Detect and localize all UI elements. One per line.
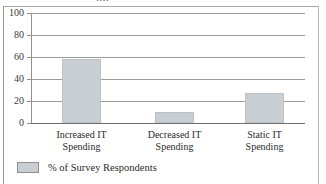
bar-static-it-spending[interactable] [245, 93, 284, 123]
xtick-label-static-it-spending: Static IT Spending [224, 129, 305, 152]
figure-frame-right [318, 6, 319, 184]
chart-legend: % of Survey Respondents [17, 162, 157, 173]
ytick-mark-0 [27, 123, 31, 124]
xtick-label-line2: Spending [41, 141, 122, 153]
ytick-label-80: 80 [14, 30, 24, 40]
bar-chart-figure: pp 100 80 60 40 20 0 Increased IT Spendi… [0, 0, 326, 184]
xtick-label-line2: Spending [134, 141, 215, 153]
ytick-mark-40 [27, 79, 31, 80]
bar-increased-it-spending[interactable] [62, 59, 101, 123]
xtick-label-line2: Spending [224, 141, 305, 153]
legend-swatch-survey-respondents [17, 162, 39, 173]
ytick-label-20: 20 [14, 96, 24, 106]
ytick-label-100: 100 [9, 8, 24, 18]
plot-area: 100 80 60 40 20 0 Increased IT Spending … [31, 13, 305, 123]
ytick-label-60: 60 [14, 52, 24, 62]
bar-decreased-it-spending[interactable] [155, 112, 194, 123]
xtick-label-line1: Increased IT [41, 129, 122, 141]
xtick-label-decreased-it-spending: Decreased IT Spending [134, 129, 215, 152]
figure-frame-top [3, 6, 319, 7]
ytick-label-40: 40 [14, 74, 24, 84]
gridline-80 [31, 35, 305, 36]
chart-title-remnant: pp [96, 0, 156, 1]
gridline-60 [31, 57, 305, 58]
x-axis-line [31, 123, 305, 124]
gridline-100 [31, 13, 305, 14]
legend-label-survey-respondents: % of Survey Respondents [48, 162, 157, 173]
ytick-label-0: 0 [19, 118, 24, 128]
xtick-label-line1: Decreased IT [134, 129, 215, 141]
figure-frame-left [3, 6, 4, 184]
xtick-label-line1: Static IT [224, 129, 305, 141]
ytick-mark-60 [27, 57, 31, 58]
ytick-mark-100 [27, 13, 31, 14]
y-axis-line [31, 13, 32, 123]
xtick-label-increased-it-spending: Increased IT Spending [41, 129, 122, 152]
ytick-mark-20 [27, 101, 31, 102]
ytick-mark-80 [27, 35, 31, 36]
